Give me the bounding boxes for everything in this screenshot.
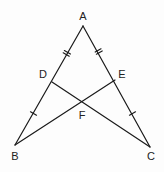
segment-ab — [15, 26, 83, 145]
geometry-diagram: A B C D E F — [0, 0, 164, 172]
point-label-d: D — [39, 68, 47, 80]
point-label-f: F — [79, 109, 86, 121]
point-label-c: C — [147, 150, 155, 162]
point-label-b: B — [11, 150, 18, 162]
segment-be — [15, 80, 115, 145]
point-label-e: E — [118, 68, 125, 80]
diagram-svg: A B C D E F — [0, 0, 164, 172]
segment-cd — [52, 82, 150, 147]
segment-ac — [83, 26, 150, 147]
point-label-a: A — [79, 10, 87, 22]
